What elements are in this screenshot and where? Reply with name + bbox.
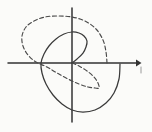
spiral-figure: [0, 0, 152, 132]
figure-background: [0, 0, 152, 132]
spiral-figure-canvas: [0, 0, 152, 132]
